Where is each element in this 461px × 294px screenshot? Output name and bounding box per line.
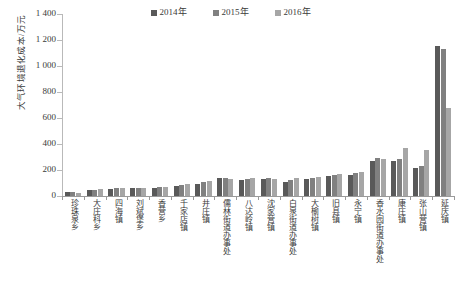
bar-group [127,14,149,196]
bar-group [236,14,258,196]
bar-group [367,14,389,196]
bar[interactable] [261,179,266,196]
bar[interactable] [228,179,233,196]
bar[interactable] [174,186,179,196]
x-axis-tick-label: 张山营镇 [417,199,426,231]
bar[interactable] [92,190,97,196]
x-axis-tick-label: 香营乡 [156,199,165,223]
bar[interactable] [337,174,342,196]
bar[interactable] [283,182,288,196]
bar[interactable] [441,49,446,196]
y-axis-tick-label: 400 [0,139,56,148]
bar[interactable] [403,148,408,196]
bar[interactable] [375,158,380,196]
x-axis-tick-label: 白泉街道办事处 [287,199,296,255]
bar[interactable] [304,179,309,196]
bar-group [214,14,236,196]
bar-group [84,14,106,196]
bar[interactable] [250,178,255,196]
y-axis-tick-label: 1 400 [0,9,56,18]
bar[interactable] [370,161,375,196]
bar-group [106,14,128,196]
x-axis-tick-label: 沈家营镇 [265,199,274,231]
bar[interactable] [239,180,244,196]
bar[interactable] [163,187,168,196]
bar[interactable] [157,187,162,196]
bar[interactable] [223,178,228,196]
bar[interactable] [391,161,396,196]
x-axis-tick-label: 刘斌堡乡 [134,199,143,231]
bar[interactable] [310,178,315,196]
bar[interactable] [217,178,222,196]
x-axis-tick [454,196,455,200]
bar[interactable] [288,180,293,196]
bar-group [410,14,432,196]
bar[interactable] [114,188,119,196]
y-axis-tick-label: 1 000 [0,61,56,70]
bar[interactable] [245,179,250,196]
y-axis-tick-label: 600 [0,113,56,122]
bar[interactable] [70,192,75,196]
bar-group [193,14,215,196]
bar[interactable] [108,189,113,196]
bar[interactable] [141,188,146,196]
bar[interactable] [266,178,271,196]
bar[interactable] [348,175,353,196]
x-axis-tick-label: 大庄科乡 [91,199,100,231]
bar-chart: 2014年2015年2016年 大气环境退化成本/万元 020040060080… [0,0,461,294]
bar[interactable] [397,159,402,196]
x-axis-tick-label: 延庆镇 [439,199,448,223]
bar[interactable] [185,184,190,196]
x-axis-tick-label: 康庄镇 [396,199,405,223]
bar[interactable] [201,182,206,196]
x-axis-tick-label: 千家店镇 [178,199,187,231]
x-axis-tick-label: 四海镇 [112,199,121,223]
bar[interactable] [65,192,70,196]
bar[interactable] [381,159,386,196]
bar[interactable] [424,150,429,196]
bar[interactable] [446,108,451,196]
bar[interactable] [419,166,424,196]
y-axis-tick-label: 800 [0,87,56,96]
bar-group [432,14,454,196]
bar[interactable] [294,178,299,196]
bar-group [345,14,367,196]
x-axis-tick-label: 大榆树镇 [308,199,317,231]
bar[interactable] [353,173,358,196]
plot-area [62,14,454,196]
x-axis-tick-label: 香水园街道办事处 [374,199,383,263]
y-axis-tick-label: 200 [0,165,56,174]
bar[interactable] [179,185,184,196]
bar[interactable] [316,177,321,197]
bar[interactable] [272,179,277,196]
bar[interactable] [130,188,135,196]
x-axis-tick-labels: 珍珠泉乡大庄科乡四海镇刘斌堡乡香营乡千家店镇井庄镇儒林街道办事处八达岭镇沈家营镇… [62,199,454,289]
x-axis-tick-label: 旧县镇 [330,199,339,223]
x-axis-tick-label: 珍珠泉乡 [69,199,78,231]
bar[interactable] [326,176,331,196]
bar-group [62,14,84,196]
bar[interactable] [76,193,81,196]
bar[interactable] [435,46,440,196]
y-axis-tick-label: 1 200 [0,35,56,44]
bar[interactable] [413,168,418,196]
bar-group [389,14,411,196]
bar[interactable] [98,189,103,196]
bar[interactable] [87,190,92,196]
bar-group [149,14,171,196]
bar[interactable] [136,188,141,196]
bar[interactable] [120,188,125,196]
bar[interactable] [359,172,364,196]
y-axis-tick-label: 0 [0,191,56,200]
x-axis-tick-label: 儒林街道办事处 [221,199,230,255]
bar[interactable] [152,188,157,196]
bar[interactable] [207,181,212,196]
bar-group [258,14,280,196]
bar[interactable] [332,175,337,196]
bar-group [280,14,302,196]
bar-group [171,14,193,196]
x-axis-tick-label: 永宁镇 [352,199,361,223]
bar-group [302,14,324,196]
bar-group [323,14,345,196]
bar[interactable] [195,184,200,196]
